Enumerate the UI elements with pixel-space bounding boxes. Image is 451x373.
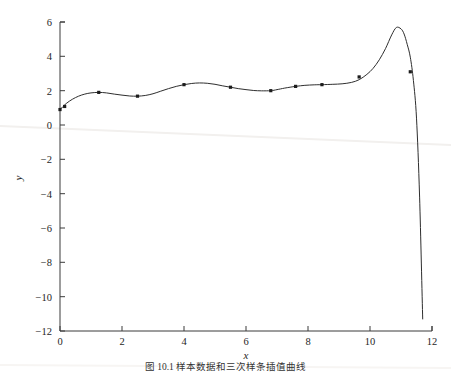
x-tick-label: 8 — [305, 336, 310, 347]
spline-curve — [60, 27, 423, 319]
data-point-marker — [320, 83, 323, 86]
y-tick-label: −6 — [41, 223, 52, 234]
x-tick-label: 2 — [119, 336, 124, 347]
y-tick-labels: 6 4 2 0 −2 −4 −6 −8 −10 −12 — [36, 17, 53, 337]
x-axis-ticks — [60, 326, 432, 331]
y-axis-title: y — [12, 175, 24, 181]
data-point-marker — [358, 75, 361, 78]
x-axis-title: x — [243, 349, 249, 361]
y-axis-ticks — [60, 22, 65, 331]
figure-container: 6 4 2 0 −2 −4 −6 −8 −10 −12 0 2 4 6 8 10… — [0, 0, 451, 373]
axes-spine — [60, 22, 432, 331]
data-point-marker — [182, 83, 185, 86]
x-tick-labels: 0 2 4 6 8 10 12 — [57, 336, 437, 347]
x-tick-label: 4 — [181, 336, 187, 347]
y-tick-label: 2 — [47, 86, 52, 97]
y-tick-label: −4 — [41, 189, 53, 200]
y-tick-label: −2 — [41, 154, 52, 165]
data-point-marker — [63, 105, 66, 108]
data-point-marker — [409, 70, 412, 73]
data-point-marker — [58, 108, 61, 111]
data-point-marker — [97, 91, 100, 94]
y-tick-label: −12 — [36, 326, 52, 337]
x-tick-label: 10 — [365, 336, 376, 347]
x-tick-label: 12 — [427, 336, 438, 347]
y-tick-label: 4 — [47, 51, 53, 62]
y-tick-label: −8 — [41, 257, 52, 268]
data-point-marker — [229, 86, 232, 89]
data-point-marker — [269, 89, 272, 92]
y-tick-label: 6 — [47, 17, 52, 28]
figure-caption: 图 10.1 样本数据和三次样条插值曲线 — [0, 362, 451, 373]
x-tick-label: 6 — [243, 336, 248, 347]
x-tick-label: 0 — [57, 336, 62, 347]
y-tick-label: 0 — [47, 120, 52, 131]
data-point-marker — [136, 95, 139, 98]
data-point-marker — [294, 85, 297, 88]
y-tick-label: −10 — [36, 292, 52, 303]
line-chart: 6 4 2 0 −2 −4 −6 −8 −10 −12 0 2 4 6 8 10… — [0, 0, 451, 373]
scan-artifact-line — [0, 126, 451, 145]
data-point-markers — [58, 70, 412, 111]
